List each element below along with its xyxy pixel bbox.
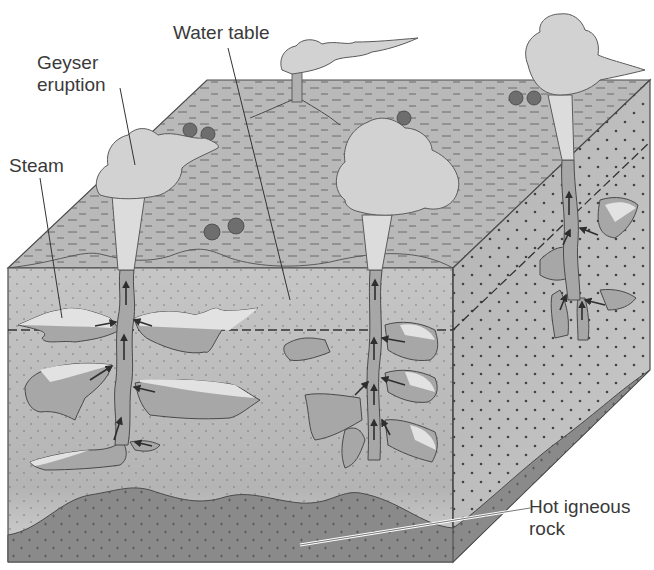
label-water-table: Water table <box>173 22 269 44</box>
label-geyser-eruption: Geyser eruption <box>37 52 106 96</box>
geyser-diagram: Geyser eruption Water table Steam Hot ig… <box>0 0 654 570</box>
label-hot-igneous-rock: Hot igneous rock <box>529 496 630 540</box>
label-steam: Steam <box>9 155 64 177</box>
